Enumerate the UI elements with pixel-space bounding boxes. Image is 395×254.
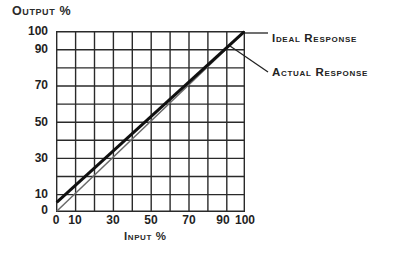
y-tick-label-10: 10 bbox=[14, 187, 48, 201]
y-tick-label-100: 100 bbox=[14, 24, 48, 38]
y-tick-label-90: 90 bbox=[14, 42, 48, 56]
y-tick-label-30: 30 bbox=[14, 151, 48, 165]
x-axis-title: Input % bbox=[124, 230, 167, 242]
x-tick-label-30: 30 bbox=[98, 213, 128, 227]
y-axis-title: Output % bbox=[12, 4, 71, 18]
y-tick-label-70: 70 bbox=[14, 78, 48, 92]
annotation-actual-response: Actual Response bbox=[272, 66, 368, 78]
plot-area bbox=[56, 31, 245, 212]
annotation-ideal-response: Ideal Response bbox=[272, 32, 357, 44]
x-tick-label-70: 70 bbox=[174, 213, 204, 227]
x-tick-label-100: 100 bbox=[230, 213, 260, 227]
x-tick-label-50: 50 bbox=[136, 213, 166, 227]
x-tick-label-10: 10 bbox=[60, 213, 90, 227]
y-tick-label-50: 50 bbox=[14, 115, 48, 129]
plot-svg bbox=[56, 31, 245, 212]
chart-canvas: Output % 100 90 70 50 30 10 0 0 10 30 50… bbox=[0, 0, 395, 254]
